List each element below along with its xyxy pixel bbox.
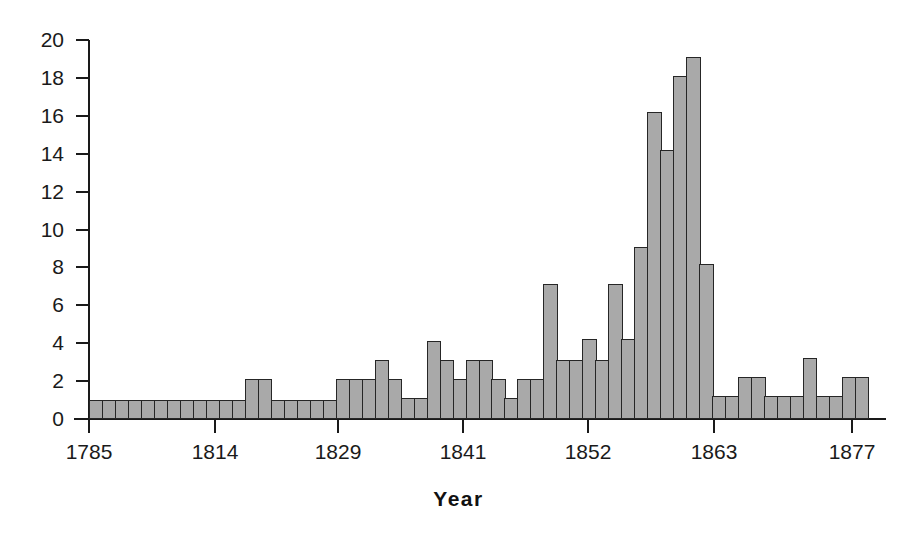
y-axis-label: 4 <box>22 332 64 353</box>
y-axis-label: 8 <box>22 256 64 277</box>
x-axis-tick <box>88 419 90 433</box>
y-axis-label: 14 <box>22 143 64 164</box>
y-axis-tick <box>76 229 89 231</box>
x-axis-tick <box>587 419 589 433</box>
y-axis-tick <box>76 304 89 306</box>
y-axis-tick <box>76 266 89 268</box>
y-axis-label: 0 <box>22 408 64 429</box>
histogram-bar <box>855 377 869 419</box>
x-axis-tick <box>713 419 715 433</box>
x-axis-label: 1785 <box>44 440 134 464</box>
y-axis-label: 10 <box>22 219 64 240</box>
y-axis-label: 12 <box>22 181 64 202</box>
x-axis-tick <box>851 419 853 433</box>
x-axis-label: 1829 <box>293 440 383 464</box>
y-axis-tick <box>76 342 89 344</box>
y-axis-tick <box>76 153 89 155</box>
y-axis-tick <box>76 39 89 41</box>
y-axis-label: 18 <box>22 67 64 88</box>
y-axis-label: 6 <box>22 294 64 315</box>
x-axis-label: 1814 <box>170 440 260 464</box>
y-axis-tick <box>76 115 89 117</box>
y-axis-label: 16 <box>22 105 64 126</box>
y-axis-label: 2 <box>22 370 64 391</box>
y-axis-tick <box>76 77 89 79</box>
y-axis-tick <box>76 191 89 193</box>
x-axis-label: 1852 <box>543 440 633 464</box>
x-axis-label: 1863 <box>669 440 759 464</box>
x-axis-tick <box>462 419 464 433</box>
x-axis-tick <box>337 419 339 433</box>
x-axis-title: Year <box>0 487 917 511</box>
x-axis-label: 1841 <box>418 440 508 464</box>
x-axis-tick <box>214 419 216 433</box>
x-axis-label: 1877 <box>807 440 897 464</box>
y-axis-tick <box>76 380 89 382</box>
plot-area <box>89 40 868 419</box>
y-axis-label: 20 <box>22 29 64 50</box>
histogram-chart: 02468101214161820 1785181418291841185218… <box>0 0 917 541</box>
